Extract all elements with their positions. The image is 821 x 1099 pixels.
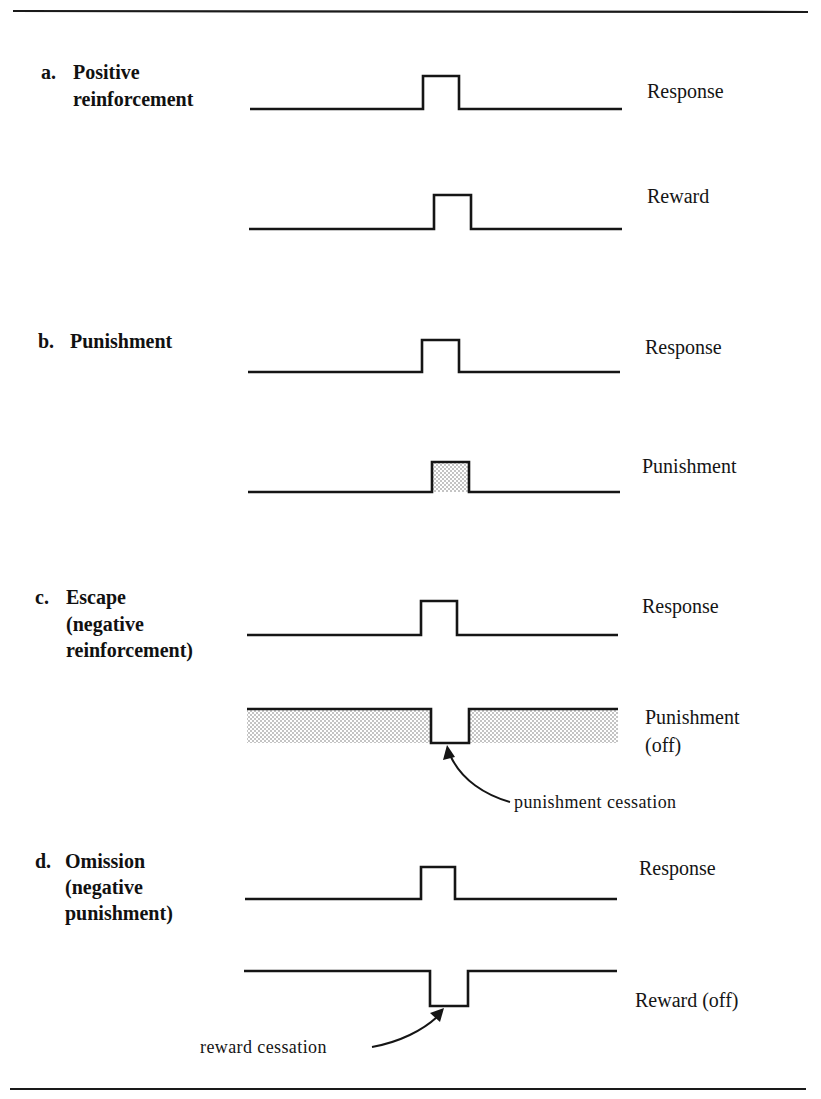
section-c-response-label: Response xyxy=(642,595,719,618)
top-rule xyxy=(13,11,808,12)
section-a-positive-reinforcement: a. Positive reinforcement Response Rewar… xyxy=(41,61,724,229)
section-b-response-label: Response xyxy=(645,336,722,359)
section-c-response-trace xyxy=(247,601,618,635)
section-d-title-line-1: Omission xyxy=(65,850,145,872)
section-c-annotation: punishment cessation xyxy=(514,792,676,812)
section-d-omission: d. Omission (negative punishment) Respon… xyxy=(35,850,738,1057)
section-a-reward-label: Reward xyxy=(647,185,709,207)
section-d-title-line-3: punishment) xyxy=(65,902,173,925)
section-b-response-trace xyxy=(248,340,620,372)
section-d-letter: d. xyxy=(35,850,51,872)
section-d-response-label: Response xyxy=(639,857,716,880)
section-b-punishment: b. Punishment Response Punishment xyxy=(38,330,737,492)
section-c-escape: c. Escape (negative reinforcement) Respo… xyxy=(35,586,740,812)
section-d-title-line-2: (negative xyxy=(65,876,143,899)
section-b-punishment-label: Punishment xyxy=(642,455,737,477)
section-d-reward-off-label: Reward (off) xyxy=(635,989,738,1012)
section-a-response-label: Response xyxy=(647,80,724,103)
section-c-cessation-arrow xyxy=(451,757,510,802)
section-c-punishment-shading-right xyxy=(469,709,618,743)
section-d-response-trace xyxy=(245,867,617,899)
section-c-punishment-shading-left xyxy=(247,709,431,743)
section-d-cessation-arrow xyxy=(372,1017,437,1047)
section-d-annotation: reward cessation xyxy=(200,1037,327,1057)
section-c-off-label: (off) xyxy=(645,734,681,757)
reinforcement-contingencies-figure: a. Positive reinforcement Response Rewar… xyxy=(0,0,821,1099)
section-c-title-line-3: reinforcement) xyxy=(66,639,193,662)
section-a-title-line-1: Positive xyxy=(73,61,140,83)
section-c-letter: c. xyxy=(35,586,49,608)
section-b-title-line-1: Punishment xyxy=(70,330,173,352)
section-b-punishment-shading xyxy=(432,462,469,492)
section-c-title-line-2: (negative xyxy=(66,613,144,636)
section-a-title-line-2: reinforcement xyxy=(73,88,194,110)
section-c-title-line-1: Escape xyxy=(66,586,126,609)
section-a-response-trace xyxy=(250,76,622,109)
section-b-letter: b. xyxy=(38,330,54,352)
section-a-letter: a. xyxy=(41,61,56,83)
section-d-reward-off-trace xyxy=(244,971,617,1006)
section-c-punishment-label: Punishment xyxy=(645,706,740,728)
section-d-arrowhead-icon xyxy=(430,1008,444,1022)
section-a-reward-trace xyxy=(249,195,622,229)
section-c-arrowhead-icon xyxy=(443,745,455,760)
